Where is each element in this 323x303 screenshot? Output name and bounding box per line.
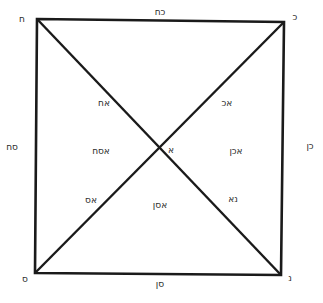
diagonal-tr-bl: [35, 22, 284, 273]
center-label: א: [168, 146, 174, 155]
edge-label-right: כן: [306, 142, 313, 151]
triangle-label-left: אסח: [92, 147, 110, 156]
edge-label-left: סח: [6, 143, 18, 152]
edge-label-top: כח: [155, 8, 166, 17]
square-diagram: ח כ נ ס א כח כן סן סח אח אכ נא אס אסח אכ…: [0, 0, 323, 303]
triangle-label-bottom: אסן: [153, 201, 167, 210]
half-diagonal-label-lower-right: נא: [228, 195, 238, 204]
triangle-label-right: אכן: [229, 147, 242, 156]
corner-label-top-left: ח: [19, 15, 25, 24]
corner-label-top-right: כ: [293, 13, 298, 22]
diagram-lines: [0, 0, 323, 303]
half-diagonal-label-upper-right: אכ: [222, 99, 233, 108]
corner-label-bottom-right: נ: [288, 274, 292, 283]
half-diagonal-label-upper-left: אח: [98, 99, 110, 108]
half-diagonal-label-lower-left: אס: [85, 196, 97, 205]
corner-label-bottom-left: ס: [22, 275, 28, 284]
edge-label-bottom: סן: [156, 280, 164, 289]
